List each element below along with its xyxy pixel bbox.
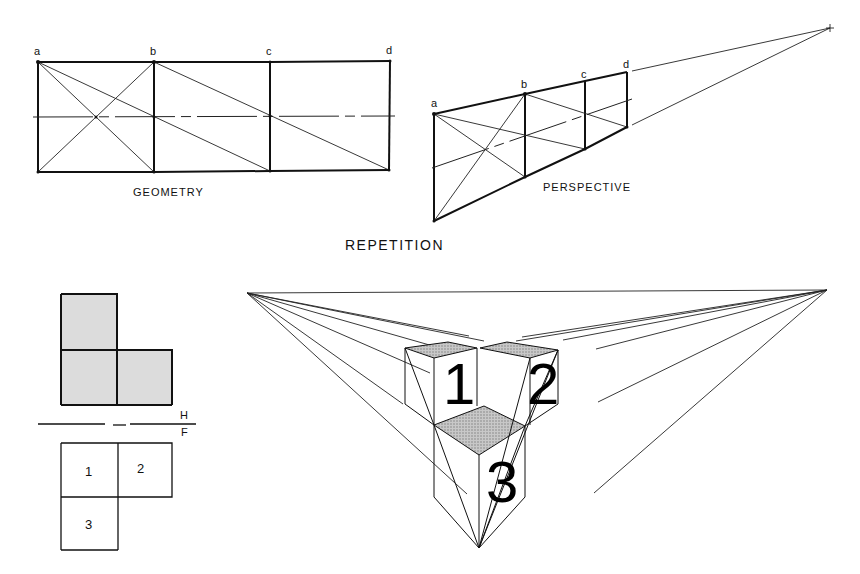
geometry-panel: a b c d GEOMETRY: [33, 44, 395, 198]
plan-square-1: 1: [85, 464, 92, 479]
perspective-label-c: c: [581, 68, 587, 80]
perspective-label-b: b: [521, 78, 527, 90]
geometry-label-d: d: [386, 44, 392, 56]
geometry-label-a: a: [34, 45, 41, 57]
perspective-label-a: a: [431, 97, 438, 109]
cube-label-1: 1: [443, 351, 475, 416]
geometry-label-c: c: [266, 45, 272, 57]
cube-label-3: 3: [486, 449, 518, 514]
perspective-label-d: d: [623, 58, 629, 70]
plan-square-2: 2: [137, 461, 144, 476]
cube-label-2: 2: [527, 351, 559, 416]
plan-panel: H F 1 2 3: [38, 294, 196, 550]
geometry-caption: GEOMETRY: [133, 186, 204, 198]
geometry-label-b: b: [150, 45, 156, 57]
figure-title: REPETITION: [345, 237, 444, 253]
perspective-panel: a b c d PERSPECTIVE: [431, 24, 834, 223]
plan-square-3: 3: [85, 517, 92, 532]
cube-panel: 1 2 3: [247, 290, 827, 548]
horizon-label-f: F: [181, 426, 188, 438]
perspective-caption: PERSPECTIVE: [543, 181, 631, 193]
horizon-label-h: H: [180, 409, 188, 421]
repetition-diagram: a b c d GEOMETRY a b c d PERSPECTIV: [0, 0, 860, 574]
